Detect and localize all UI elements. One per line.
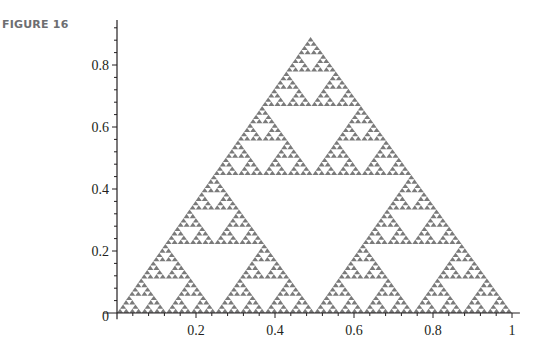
fractal-cell (432, 309, 438, 313)
fractal-cell (328, 149, 334, 153)
fractal-cell (280, 270, 286, 274)
fractal-cell (380, 136, 386, 140)
fractal-cell (233, 222, 239, 226)
fractal-cell (197, 309, 203, 313)
fractal-cell (496, 296, 502, 300)
fractal-cell (263, 171, 269, 175)
fractal-cell (280, 287, 286, 291)
fractal-cell (413, 309, 419, 313)
fractal-cell (462, 274, 468, 278)
fractal-cell (327, 300, 333, 304)
fractal-cell (336, 102, 342, 106)
fractal-cell (503, 304, 509, 308)
fractal-cell (153, 266, 159, 270)
fractal-cell (132, 287, 138, 291)
fractal-cell (229, 166, 235, 170)
fractal-cell (244, 153, 250, 157)
fractal-cell (449, 240, 455, 244)
fractal-cell (240, 291, 246, 295)
fractal-cell (256, 136, 262, 140)
fractal-cell (418, 197, 424, 201)
fractal-cell (226, 162, 232, 166)
fractal-cell (245, 231, 251, 235)
fractal-cell (227, 205, 233, 209)
fractal-cell (274, 296, 280, 300)
fractal-cell (223, 192, 229, 196)
fractal-cell (402, 166, 408, 170)
fractal-cell (401, 309, 407, 313)
fractal-cell (191, 283, 197, 287)
fractal-cell (351, 257, 357, 261)
fractal-cell (450, 266, 456, 270)
fractal-cell (147, 266, 153, 270)
fractal-cell (481, 274, 487, 278)
fractal-cell (253, 115, 259, 119)
fractal-cell (363, 240, 369, 244)
fractal-cell (368, 162, 374, 166)
fractal-cell (350, 171, 356, 175)
fractal-cell (190, 205, 196, 209)
fractal-cell (265, 309, 271, 313)
fractal-cell (184, 240, 190, 244)
fractal-cell (227, 231, 233, 235)
fractal-cell (493, 300, 499, 304)
fractal-cell (202, 231, 208, 235)
fractal-cell (191, 291, 197, 295)
x-tick-label: 0.4 (266, 323, 284, 338)
fractal-cell (342, 287, 348, 291)
fractal-cell (325, 162, 331, 166)
fractal-cell (444, 291, 450, 295)
fractal-cell (349, 136, 355, 140)
fractal-cell (447, 296, 453, 300)
fractal-cell (169, 270, 175, 274)
fractal-cell (215, 240, 221, 244)
fractal-cell (123, 309, 129, 313)
fractal-cell (230, 235, 236, 239)
fractal-cell (456, 274, 462, 278)
fractal-cell (227, 222, 233, 226)
fractal-cell (247, 309, 253, 313)
fractal-cell (418, 188, 424, 192)
fractal-cell (245, 222, 251, 226)
fractal-cell (425, 291, 431, 295)
fractal-cell (196, 240, 202, 244)
fractal-cell (144, 270, 150, 274)
fractal-cell (340, 166, 346, 170)
fractal-cell (419, 309, 425, 313)
fractal-cell (205, 184, 211, 188)
fractal-cell (453, 304, 459, 308)
fractal-cell (354, 253, 360, 257)
fractal-cell (421, 227, 427, 231)
fractal-cell (145, 304, 151, 308)
fractal-cell (506, 309, 512, 313)
fractal-cell (144, 287, 150, 291)
x-tick-label: 1 (509, 323, 516, 338)
fractal-cell (370, 123, 376, 127)
fractal-cell (475, 300, 481, 304)
fractal-cell (428, 235, 434, 239)
fractal-cell (369, 231, 375, 235)
fractal-cell (427, 218, 433, 222)
fractal-cell (172, 266, 178, 270)
fractal-cell (297, 158, 303, 162)
fractal-cell (469, 309, 475, 313)
fractal-cell (280, 304, 286, 308)
fractal-cell (317, 67, 323, 71)
fractal-cell (402, 201, 408, 205)
fractal-cell (214, 171, 220, 175)
fractal-cell (296, 309, 302, 313)
fractal-cell (444, 309, 450, 313)
fractal-cell (277, 266, 283, 270)
fractal-cell (233, 214, 239, 218)
fractal-cell (468, 274, 474, 278)
fractal-cell (394, 291, 400, 295)
fractal-cell (271, 274, 277, 278)
fractal-cell (443, 222, 449, 226)
fractal-cell (478, 287, 484, 291)
fractal-cell (166, 309, 172, 313)
fractal-cell (450, 274, 456, 278)
fractal-cell (243, 304, 249, 308)
fractal-cell (281, 136, 287, 140)
fractal-cell (429, 304, 435, 308)
fractal-cell (465, 270, 471, 274)
